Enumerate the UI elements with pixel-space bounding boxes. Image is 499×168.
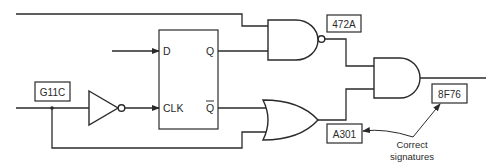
signature-a301-text: A301: [333, 129, 357, 140]
or-output-wire: [318, 89, 374, 120]
logic-circuit-diagram: D Q CLK Q G11C 472A: [0, 0, 499, 168]
inverter-bubble: [118, 105, 125, 112]
annotation-arrow-a301: [363, 130, 413, 137]
q-bar-pin-label: Q: [206, 102, 214, 114]
nand-gate: [268, 20, 318, 60]
signature-472a-text: 472A: [332, 19, 356, 30]
annotation-line2: signatures: [390, 151, 434, 162]
signature-g11c-text: G11C: [40, 87, 65, 98]
nand-output-wire: [325, 39, 374, 66]
clk-pin-label: CLK: [163, 102, 183, 114]
and-gate: [374, 58, 420, 98]
q-pin-label: Q: [206, 45, 214, 57]
circuit-svg: D Q CLK Q G11C 472A: [0, 0, 499, 168]
signature-8f76-text: 8F76: [438, 89, 461, 100]
inverter-gate: [89, 91, 118, 125]
annotation-arrow-8f76: [413, 104, 440, 137]
or-gate: [263, 100, 318, 140]
nand-bubble: [318, 36, 325, 43]
d-pin-label: D: [163, 45, 171, 57]
annotation-line1: Correct: [396, 139, 428, 150]
top-wire: [16, 14, 268, 26]
